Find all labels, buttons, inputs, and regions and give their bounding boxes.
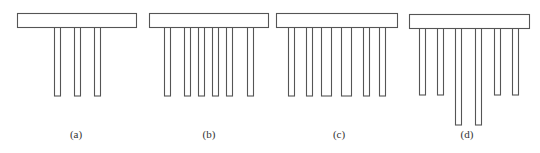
pile-d-4 xyxy=(476,28,482,125)
pile-cap-d xyxy=(410,15,530,29)
pile-b-3 xyxy=(199,27,205,96)
pile-b-4 xyxy=(213,27,219,96)
pile-a-1 xyxy=(55,27,61,96)
pile-d-3 xyxy=(456,28,462,125)
pile-b-5 xyxy=(227,27,233,96)
pile-c-5 xyxy=(364,27,370,96)
pile-c-3 xyxy=(322,27,332,96)
panel-label-d: (d) xyxy=(461,128,474,141)
pile-c-2 xyxy=(307,27,313,96)
pile-a-3 xyxy=(95,27,101,96)
pile-d-5 xyxy=(495,28,501,95)
panel-label-a: (a) xyxy=(70,128,83,141)
pile-cap-b xyxy=(150,14,269,28)
panel-a xyxy=(18,14,137,97)
panel-label-b: (b) xyxy=(203,128,216,141)
pile-foundation-diagram: (a) (b) (c) (d) xyxy=(0,0,540,153)
panel-d xyxy=(410,15,530,126)
pile-cap-c xyxy=(277,14,398,28)
pile-c-1 xyxy=(289,27,295,96)
pile-a-2 xyxy=(75,27,81,96)
panel-b xyxy=(150,14,269,97)
panel-c xyxy=(277,14,398,97)
pile-d-2 xyxy=(438,28,444,95)
pile-c-6 xyxy=(380,27,386,96)
pile-d-1 xyxy=(420,28,426,95)
pile-cap-a xyxy=(18,14,137,28)
panel-label-c: (c) xyxy=(333,128,346,141)
pile-b-2 xyxy=(185,27,191,96)
pile-b-1 xyxy=(165,27,171,96)
pile-b-6 xyxy=(248,27,254,96)
pile-d-6 xyxy=(513,28,519,95)
pile-c-4 xyxy=(342,27,352,96)
